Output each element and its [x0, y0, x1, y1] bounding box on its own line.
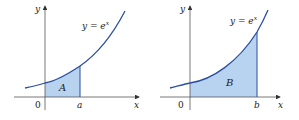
bound-label-a: a: [77, 100, 82, 110]
right-graph: y x 0 b B y = ex: [160, 4, 283, 110]
left-graph: y x 0 a A y = ex: [14, 4, 139, 110]
y-axis-label: y: [179, 4, 186, 14]
y-axis-label: y: [34, 4, 41, 14]
x-axis-label: x: [278, 100, 283, 110]
bound-label-b: b: [254, 100, 260, 110]
shaded-region-b: [190, 32, 257, 97]
equation-label: y = ex: [81, 19, 110, 31]
figure-pair: y x 0 a A y = ex y x 0 b B y = ex: [0, 0, 299, 120]
region-label-a: A: [58, 82, 66, 93]
equation-label: y = ex: [229, 14, 258, 26]
origin-label: 0: [35, 100, 41, 110]
region-label-b: B: [225, 77, 233, 88]
origin-label: 0: [178, 100, 184, 110]
x-axis-label: x: [134, 100, 139, 110]
